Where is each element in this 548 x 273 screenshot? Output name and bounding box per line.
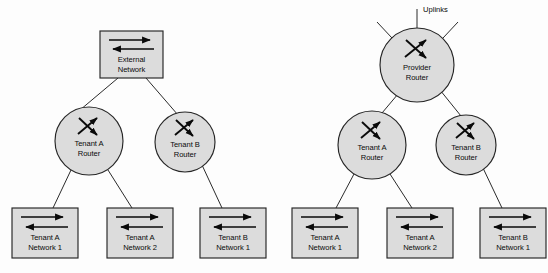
uplink-line-left — [377, 22, 392, 38]
tenant-a-router-label-line2: Router — [361, 153, 384, 162]
tenant-a-network-1-label-line1: Tenant A — [30, 233, 60, 242]
node-provider-router[interactable]: Provider Router — [380, 28, 454, 102]
node-tenant-b-router-right[interactable]: Tenant B Router — [436, 115, 496, 175]
edge-tenant-a-router-to-network-2 — [390, 174, 412, 208]
node-tenant-a-router-left[interactable]: Tenant A Router — [55, 107, 123, 175]
tenant-a-network-2-label-line1: Tenant A — [405, 233, 435, 242]
right-diagram: Uplinks Provider Router Te — [292, 5, 546, 258]
tenant-b-router-label-line1: Tenant B — [170, 140, 200, 149]
tenant-b-network-1-label-line1: Tenant B — [218, 233, 248, 242]
tenant-b-network-1-label-line2: Network 1 — [216, 243, 250, 252]
tenant-a-network-1-label-line1: Tenant A — [310, 233, 340, 242]
edge-tenant-a-router-to-network-1 — [336, 174, 354, 208]
provider-router-label-line2: Router — [406, 73, 429, 82]
external-network-label-line2: Network — [118, 65, 146, 74]
node-tenant-a-router-right[interactable]: Tenant A Router — [338, 111, 406, 179]
tenant-b-network-1-label-line1: Tenant B — [498, 233, 528, 242]
node-tenant-a-network-1-left[interactable]: Tenant A Network 1 — [12, 208, 78, 258]
tenant-a-router-label-line1: Tenant A — [74, 139, 104, 148]
node-tenant-b-network-1-left[interactable]: Tenant B Network 1 — [200, 208, 266, 258]
tenant-a-router-label-line2: Router — [78, 149, 101, 158]
node-tenant-a-network-2-left[interactable]: Tenant A Network 2 — [107, 208, 173, 258]
network-topology-figure: External Network Tenant A Router Tenant … — [0, 0, 548, 273]
tenant-a-network-2-label-line2: Network 2 — [123, 243, 157, 252]
edge-tenant-b-router-to-network-1 — [202, 165, 222, 208]
tenant-a-network-1-label-line2: Network 1 — [308, 243, 342, 252]
provider-router-label-line1: Provider — [403, 63, 431, 72]
external-network-label-line1: External — [118, 55, 146, 64]
tenant-b-network-1-label-line2: Network 1 — [496, 243, 530, 252]
tenant-a-network-2-label-line1: Tenant A — [125, 233, 155, 242]
uplink-line-right — [443, 22, 458, 38]
node-tenant-a-network-1-right[interactable]: Tenant A Network 1 — [292, 208, 358, 258]
tenant-b-router-label-line2: Router — [174, 150, 197, 159]
edge-provider-to-tenant-a-router — [382, 94, 398, 113]
edge-provider-to-tenant-b-router — [440, 90, 461, 116]
edge-tenant-b-router-to-network-1 — [483, 168, 502, 208]
tenant-b-router-label-line2: Router — [455, 153, 478, 162]
tenant-b-router-label-line1: Tenant B — [451, 143, 481, 152]
edge-tenant-a-router-to-network-2 — [108, 170, 132, 208]
node-tenant-b-network-1-right[interactable]: Tenant B Network 1 — [480, 208, 546, 258]
left-diagram: External Network Tenant A Router Tenant … — [12, 31, 266, 258]
node-external-network[interactable]: External Network — [100, 31, 163, 78]
tenant-a-network-2-label-line2: Network 2 — [403, 243, 437, 252]
edge-external-to-tenant-a-router — [80, 78, 118, 110]
uplinks-label: Uplinks — [423, 5, 448, 14]
tenant-a-network-1-label-line2: Network 1 — [28, 243, 62, 252]
edge-tenant-a-router-to-network-1 — [53, 170, 71, 208]
node-tenant-b-router-left[interactable]: Tenant B Router — [155, 112, 215, 172]
tenant-a-router-label-line1: Tenant A — [357, 143, 387, 152]
edge-external-to-tenant-b-router — [146, 78, 178, 115]
node-tenant-a-network-2-right[interactable]: Tenant A Network 2 — [387, 208, 453, 258]
